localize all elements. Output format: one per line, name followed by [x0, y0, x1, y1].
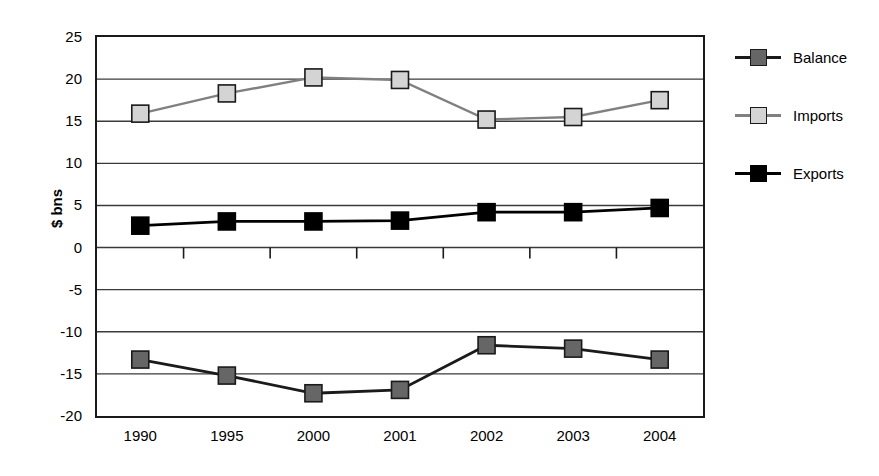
legend-label: Imports — [793, 107, 843, 124]
y-tick-label: -15 — [36, 366, 82, 381]
data-point-marker[interactable] — [478, 337, 495, 354]
y-tick-label: 0 — [36, 240, 82, 255]
y-tick-label: 10 — [36, 155, 82, 170]
data-point-marker[interactable] — [392, 212, 409, 229]
x-tick-label: 2001 — [357, 428, 444, 443]
y-tick-label: 15 — [36, 113, 82, 128]
legend-label: Balance — [793, 49, 847, 66]
data-point-marker[interactable] — [132, 105, 149, 122]
legend-marker — [750, 49, 767, 66]
data-point-marker[interactable] — [218, 213, 235, 230]
x-tick-label: 1995 — [183, 428, 270, 443]
data-point-marker[interactable] — [651, 199, 668, 216]
data-point-marker[interactable] — [305, 385, 322, 402]
data-point-marker[interactable] — [218, 367, 235, 384]
data-point-marker[interactable] — [218, 85, 235, 102]
data-point-marker[interactable] — [305, 213, 322, 230]
data-point-marker[interactable] — [132, 351, 149, 368]
plot-svg — [97, 37, 703, 416]
legend-key-icon — [735, 164, 781, 182]
data-point-marker[interactable] — [651, 351, 668, 368]
y-tick-label: 5 — [36, 197, 82, 212]
chart-legend: BalanceImportsExports — [735, 28, 875, 202]
data-point-marker[interactable] — [651, 92, 668, 109]
legend-marker — [750, 165, 767, 182]
y-tick-label: 25 — [36, 29, 82, 44]
data-point-marker[interactable] — [565, 109, 582, 126]
y-tick-label: -10 — [36, 324, 82, 339]
legend-marker — [750, 107, 767, 124]
x-tick-label: 2000 — [270, 428, 357, 443]
legend-item-balance[interactable]: Balance — [735, 28, 875, 86]
x-tick-label: 2004 — [616, 428, 703, 443]
legend-key-icon — [735, 48, 781, 66]
data-point-marker[interactable] — [565, 204, 582, 221]
y-tick-label: -20 — [36, 408, 82, 423]
data-point-marker[interactable] — [132, 217, 149, 234]
y-tick-label: 20 — [36, 71, 82, 86]
y-tick-label: -5 — [36, 282, 82, 297]
legend-key-icon — [735, 106, 781, 124]
legend-label: Exports — [793, 165, 844, 182]
x-tick-label: 1990 — [97, 428, 184, 443]
data-point-marker[interactable] — [565, 340, 582, 357]
plot-area — [95, 35, 705, 418]
data-point-marker[interactable] — [305, 69, 322, 86]
legend-item-exports[interactable]: Exports — [735, 144, 875, 202]
legend-item-imports[interactable]: Imports — [735, 86, 875, 144]
chart-container: $ bns 2520151050-5-10-15-20 199019952000… — [0, 0, 879, 476]
data-point-marker[interactable] — [478, 204, 495, 221]
x-tick-label: 2003 — [530, 428, 617, 443]
data-point-marker[interactable] — [478, 111, 495, 128]
data-point-marker[interactable] — [392, 381, 409, 398]
data-point-marker[interactable] — [392, 71, 409, 88]
x-tick-label: 2002 — [443, 428, 530, 443]
